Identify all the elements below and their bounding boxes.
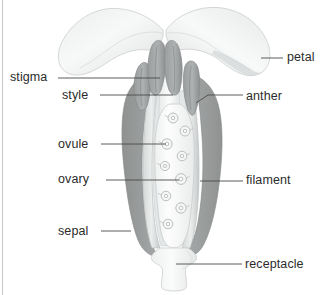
ovule-nucleus: [166, 222, 169, 225]
ovule-nucleus: [180, 154, 183, 157]
ovule-nucleus: [183, 129, 186, 132]
ovule-nucleus: [164, 194, 167, 197]
flower-diagram: [0, 0, 324, 295]
label-sepal: sepal: [58, 224, 88, 238]
label-petal: petal: [287, 50, 315, 64]
ovary: [155, 104, 195, 248]
label-style: style: [62, 88, 88, 102]
ovule-nucleus: [171, 116, 174, 119]
receptacle-group: [151, 248, 196, 291]
label-receptacle: receptacle: [245, 257, 304, 271]
ovary-group: [155, 104, 195, 248]
label-ovary: ovary: [58, 172, 89, 186]
label-ovule: ovule: [58, 137, 88, 151]
ovule-nucleus: [163, 164, 166, 167]
label-stigma: stigma: [10, 70, 47, 84]
ovule-nucleus: [179, 206, 183, 210]
ovule-nucleus: [179, 177, 183, 181]
label-filament: filament: [246, 173, 291, 187]
label-anther: anther: [246, 89, 282, 103]
diagram-canvas: stigma style ovule ovary sepal petal ant…: [0, 0, 324, 295]
